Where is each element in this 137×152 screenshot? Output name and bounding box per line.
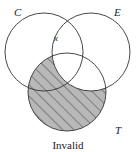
label-t: T: [115, 124, 122, 136]
label-e: E: [113, 6, 121, 18]
x-mark: x: [53, 33, 58, 43]
label-c: C: [14, 6, 22, 18]
caption-invalid: Invalid: [52, 139, 84, 151]
venn-diagram: C E T x Invalid: [0, 0, 137, 152]
